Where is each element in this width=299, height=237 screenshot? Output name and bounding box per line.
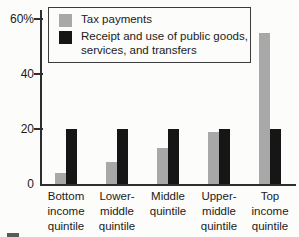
legend-label-tax-payments: Tax payments (81, 13, 152, 27)
y-axis-label-0: 0 (0, 177, 34, 191)
x-axis-label-top-income-quintile: Topincomequintile (236, 189, 299, 234)
bar-receipts-bottom-income-quintile (66, 129, 77, 184)
y-axis-label-40: 40 (0, 67, 34, 81)
bar-tax-payments-middle-quintile (157, 148, 168, 184)
y-axis-label-60%: 60% (0, 12, 34, 26)
legend-swatch-tax-payments (59, 14, 72, 27)
bar-receipts-upper-middle-quintile (219, 129, 230, 184)
bar-receipts-top-income-quintile (270, 129, 281, 184)
legend-label-receipts-line2: services, and transfers (81, 44, 197, 56)
bar-tax-payments-top-income-quintile (259, 33, 270, 184)
bar-chart-figure: Tax payments Receipt and use of public g… (0, 0, 299, 237)
legend: Tax payments Receipt and use of public g… (48, 7, 251, 63)
legend-entry-tax-payments: Tax payments (59, 13, 244, 27)
bar-receipts-middle-quintile (168, 129, 179, 184)
x-axis-line (40, 184, 296, 186)
y-axis-line (40, 10, 42, 185)
legend-label-receipts-line1: Receipt and use of public goods, (81, 30, 248, 42)
legend-swatch-receipts (59, 31, 72, 44)
y-axis-tick-60% (34, 18, 43, 20)
bar-receipts-lower-middle-quintile (117, 129, 128, 184)
y-axis-tick-20 (34, 128, 43, 130)
legend-label-receipts: Receipt and use of public goods,services… (81, 30, 248, 57)
bar-tax-payments-bottom-income-quintile (55, 173, 66, 184)
y-axis-tick-40 (34, 73, 43, 75)
bar-tax-payments-lower-middle-quintile (106, 162, 117, 184)
legend-entry-receipts: Receipt and use of public goods,services… (59, 30, 244, 57)
y-axis-label-20: 20 (0, 122, 34, 136)
bar-tax-payments-upper-middle-quintile (208, 132, 219, 184)
cropped-caption-swatch (7, 233, 19, 237)
